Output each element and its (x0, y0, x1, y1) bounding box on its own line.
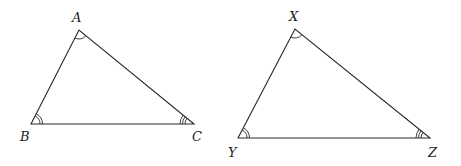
vertex-label-b: B (19, 129, 30, 144)
angle-arc (421, 132, 423, 138)
triangle-abc: A B C (19, 10, 202, 144)
angle-x-marks (291, 35, 302, 38)
vertex-label-a: A (71, 10, 81, 25)
vertex-label-x: X (288, 9, 299, 24)
angle-b-marks (35, 114, 42, 124)
angle-arc (36, 114, 42, 124)
angle-y-marks (242, 128, 249, 138)
angle-arc (75, 36, 86, 39)
angle-z-marks (416, 129, 423, 138)
triangle-xyz-outline (238, 29, 430, 138)
angle-arc (35, 116, 40, 124)
triangle-xyz: X Y Z (228, 9, 438, 160)
angle-arc (242, 130, 247, 138)
angle-c-marks (180, 115, 187, 124)
vertex-label-y: Y (228, 145, 238, 160)
triangle-abc-outline (31, 30, 194, 124)
angle-arc (291, 35, 302, 38)
angle-a-marks (75, 36, 86, 39)
angle-arc (185, 118, 187, 124)
vertex-label-c: C (192, 129, 202, 144)
angle-arc (243, 128, 249, 138)
vertex-label-z: Z (427, 145, 438, 160)
similar-triangles-diagram: A B C X Y Z (0, 0, 461, 166)
